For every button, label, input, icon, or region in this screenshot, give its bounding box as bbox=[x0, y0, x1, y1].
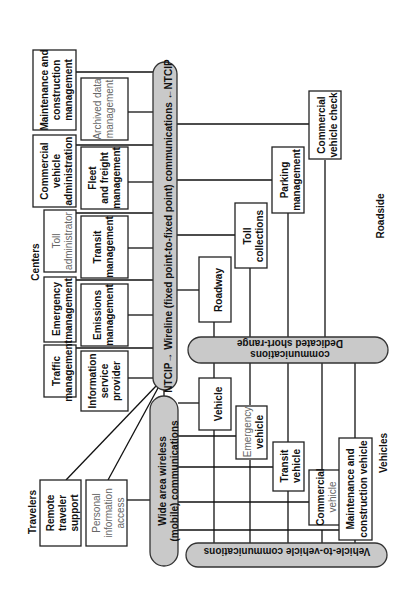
box-label: Transit bbox=[92, 230, 103, 263]
center-commercial-vehicle-admin[interactable]: Commercial vehicle administration bbox=[33, 135, 76, 207]
box-label: construction vehicle bbox=[358, 440, 369, 538]
its-architecture-diagram: NTCIP→ Wireline (fixed point-to-fixed po… bbox=[0, 0, 411, 610]
box-label: vehicle bbox=[291, 449, 302, 483]
wide-area-wireless-label-2: (mobile) communications bbox=[169, 420, 180, 542]
roadside-parking-mgmt[interactable]: Parking management bbox=[272, 147, 304, 213]
center-maintenance-construction-mgmt[interactable]: Maintenance and construction management bbox=[33, 49, 76, 130]
vehicle-vehicle[interactable]: Vehicle bbox=[199, 378, 231, 430]
center-archived-data-mgmt[interactable]: Archived data management bbox=[81, 78, 128, 140]
box-label: Emergency bbox=[51, 282, 62, 336]
v2v-label: Vehicle-to-vehicle communications bbox=[203, 546, 370, 557]
box-label: administration bbox=[63, 137, 74, 206]
travelers-group-label: Travelers bbox=[27, 490, 38, 534]
center-info-service-provider[interactable]: Information service provider bbox=[81, 351, 128, 411]
box-label: Commercial bbox=[316, 96, 327, 153]
box-label: Toll bbox=[51, 233, 62, 248]
box-label: Commercial bbox=[39, 142, 50, 199]
center-fleet-freight-mgmt[interactable]: Fleet and freight management bbox=[81, 146, 128, 209]
center-traffic-mgmt[interactable]: Traffic management bbox=[44, 339, 76, 401]
box-label: vehicle check bbox=[328, 92, 339, 157]
v2v-bus: Vehicle-to-vehicle communications bbox=[186, 543, 387, 567]
box-label: vehicle bbox=[254, 415, 265, 449]
box-label: information bbox=[103, 488, 114, 537]
traveler-personal-info-access[interactable]: Personal information access bbox=[86, 480, 127, 546]
box-label: Commercial bbox=[315, 468, 326, 525]
box-label: Emissions bbox=[92, 290, 103, 340]
box-label: management bbox=[291, 148, 302, 210]
wireline-label: NTCIP→ Wireline (fixed point-to-fixed po… bbox=[163, 59, 174, 393]
traveler-remote-support[interactable]: Remote traveler support bbox=[40, 480, 81, 546]
box-label: traveler bbox=[57, 495, 68, 531]
box-label: construction bbox=[51, 60, 62, 121]
box-label: vehicle bbox=[327, 481, 338, 513]
roadside-roadway[interactable]: Roadway bbox=[199, 257, 231, 322]
box-label: management bbox=[111, 146, 122, 208]
dsrc-label-2: communications bbox=[250, 349, 330, 360]
center-toll-admin[interactable]: Toll administrator bbox=[44, 210, 76, 272]
wide-area-wireless-bus: Wide area wireless (mobile) communicatio… bbox=[150, 396, 180, 566]
box-label: Emergency bbox=[242, 407, 253, 458]
roadside-commercial-vehicle-check[interactable]: Commercial vehicle check bbox=[309, 91, 341, 159]
box-label: Traffic bbox=[51, 356, 62, 386]
box-label: Toll bbox=[242, 227, 253, 244]
box-label: Fleet bbox=[87, 166, 98, 190]
wide-area-wireless-label-1: Wide area wireless bbox=[157, 436, 168, 526]
box-label: management bbox=[104, 215, 115, 277]
travelers-group: Travelers Remote traveler support Person… bbox=[27, 480, 127, 546]
box-label: and freight bbox=[99, 152, 110, 204]
dsrc-label-1: Dedicated short-range bbox=[236, 338, 343, 349]
vehicle-maintenance-construction[interactable]: Maintenance and construction vehicle bbox=[339, 438, 372, 540]
wireline-communications-bus: NTCIP→ Wireline (fixed point-to-fixed po… bbox=[153, 59, 177, 393]
box-label: Information bbox=[87, 354, 98, 409]
centers-group: Centers Maintenance and construction man… bbox=[30, 49, 128, 411]
box-label: administrator bbox=[63, 211, 74, 269]
centers-group-label: Centers bbox=[30, 243, 41, 281]
box-label: support bbox=[69, 494, 80, 532]
center-transit-mgmt[interactable]: Transit management bbox=[81, 215, 128, 278]
box-label: Parking bbox=[279, 162, 290, 199]
box-label: access bbox=[115, 497, 126, 528]
box-label: service bbox=[99, 363, 110, 398]
center-emergency-mgmt[interactable]: Emergency management bbox=[44, 277, 76, 342]
box-label: management bbox=[63, 277, 74, 339]
roadside-toll-collections[interactable]: Toll collections bbox=[235, 203, 267, 268]
box-label: Roadway bbox=[213, 268, 224, 312]
box-label: Maintenance and bbox=[345, 448, 356, 529]
vehicle-emergency[interactable]: Emergency vehicle bbox=[236, 406, 267, 459]
box-label: management bbox=[104, 80, 115, 139]
roadside-group: Roadside Roadway Toll collections Parkin… bbox=[199, 91, 386, 322]
vehicle-commercial[interactable]: Commercial vehicle bbox=[309, 468, 341, 525]
vehicles-group: Vehicles Vehicle Emergency vehicle Trans… bbox=[199, 378, 389, 540]
vehicle-transit[interactable]: Transit vehicle bbox=[273, 442, 304, 491]
box-label: Vehicle bbox=[213, 386, 224, 421]
box-label: collections bbox=[254, 209, 265, 262]
roadside-group-label: Roadside bbox=[375, 193, 386, 238]
dsrc-bus: Dedicated short-range communications bbox=[188, 337, 388, 363]
box-label: Transit bbox=[279, 449, 290, 482]
box-label: vehicle bbox=[51, 154, 62, 188]
vehicles-group-label: Vehicles bbox=[378, 433, 389, 473]
box-label: provider bbox=[111, 361, 122, 401]
box-label: management bbox=[63, 339, 74, 401]
center-emissions-mgmt[interactable]: Emissions management bbox=[81, 283, 128, 346]
box-label: management bbox=[63, 58, 74, 120]
box-label: Archived data bbox=[92, 78, 103, 140]
box-label: Personal bbox=[91, 493, 102, 532]
box-label: management bbox=[104, 283, 115, 345]
box-label: Maintenance and bbox=[39, 49, 50, 130]
box-label: Remote bbox=[45, 494, 56, 531]
